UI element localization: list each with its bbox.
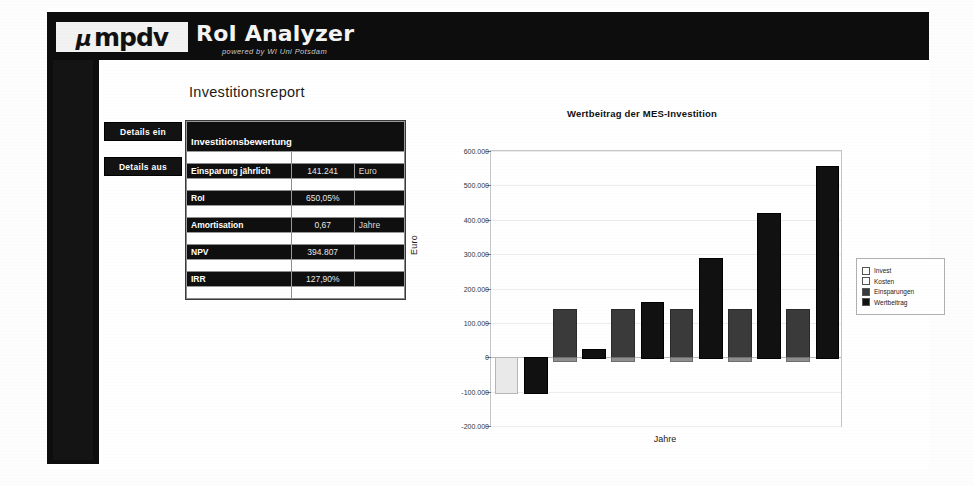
page-title: Investitionsreport [189, 84, 305, 100]
y-axis-tick-label: 400.000 [429, 216, 489, 223]
bar-wertbeitrag [816, 166, 840, 359]
app-subtitle: powered by WI Uni Potsdam [222, 47, 327, 56]
legend-swatch-icon [862, 267, 870, 275]
bar-wertbeitrag [524, 357, 548, 393]
table-spacer-row [187, 287, 405, 299]
spacer-cell [187, 152, 292, 164]
details-off-button[interactable]: Details aus [104, 157, 182, 176]
row-label: Amortisation [187, 218, 292, 233]
bar-einsparungen [611, 309, 635, 360]
table-spacer-row [187, 206, 405, 218]
table-row: IRR127,90% [187, 272, 405, 287]
row-value: 394.807 [291, 245, 354, 260]
bar-wertbeitrag [641, 302, 665, 359]
bar-kosten [611, 357, 635, 362]
bar-einsparungen [553, 309, 577, 360]
row-value: 127,90% [291, 272, 354, 287]
spacer-cell [187, 179, 292, 191]
scanned-page: µmpdv RoI Analyzer powered by WI Uni Pot… [0, 0, 974, 485]
y-axis-tick-label: -200.000 [429, 423, 489, 430]
spacer-cell [291, 260, 404, 272]
y-axis-tick-label: 0 [429, 354, 489, 361]
row-value: 141.241 [291, 164, 354, 179]
spacer-cell [291, 152, 404, 164]
bar-wertbeitrag [582, 349, 606, 360]
table-spacer-row [187, 233, 405, 245]
chart-title: Wertbeitrag der MES-Investition [432, 108, 852, 119]
legend-item: Wertbeitrag [862, 298, 940, 306]
table-row: RoI650,05% [187, 191, 405, 206]
bar-wertbeitrag [757, 213, 781, 359]
bar-einsparungen [728, 309, 752, 360]
bar-kosten [670, 357, 694, 362]
row-unit [354, 245, 404, 260]
spacer-cell [187, 206, 292, 218]
bar-group [491, 151, 549, 426]
bar-group [783, 151, 841, 426]
bar-group [608, 151, 666, 426]
bar-einsparungen [786, 309, 810, 360]
y-axis-tick-label: 500.000 [429, 182, 489, 189]
row-label: RoI [187, 191, 292, 206]
table-row: Einsparung jährlich141.241Euro [187, 164, 405, 179]
legend-swatch-icon [862, 298, 870, 306]
bar-kosten [728, 357, 752, 362]
y-axis-tick-label: 100.000 [429, 319, 489, 326]
y-axis-tick-label: 600.000 [429, 148, 489, 155]
mpdv-logo: µmpdv [56, 22, 188, 52]
table-title-cell: Investitionsbewertung [187, 122, 405, 152]
row-label: NPV [187, 245, 292, 260]
table-header-row: Investitionsbewertung [187, 122, 405, 152]
bar-group [549, 151, 607, 426]
bar-kosten [786, 357, 810, 362]
y-axis-tick-label: -100.000 [429, 388, 489, 395]
row-label: Einsparung jährlich [187, 164, 292, 179]
y-axis-label: Euro [409, 235, 419, 255]
bar-kosten [553, 357, 577, 362]
y-axis-tick-label: 200.000 [429, 285, 489, 292]
legend-item: Invest [862, 267, 940, 275]
row-unit: Jahre [354, 218, 404, 233]
wertbeitrag-chart: Wertbeitrag der MES-Investition Euro -20… [432, 100, 942, 450]
legend-swatch-icon [862, 288, 870, 296]
row-unit [354, 272, 404, 287]
legend-item: Kosten [862, 277, 940, 285]
legend-label: Invest [874, 267, 891, 274]
row-value: 650,05% [291, 191, 354, 206]
app-title: RoI Analyzer [196, 21, 354, 46]
legend-label: Wertbeitrag [874, 299, 907, 306]
x-axis-label: Jahre [490, 434, 840, 444]
table-spacer-row [187, 260, 405, 272]
table-row: NPV394.807 [187, 245, 405, 260]
spacer-cell [187, 287, 292, 299]
legend-label: Einsparungen [874, 288, 914, 295]
spacer-cell [187, 233, 292, 245]
bar-group [724, 151, 782, 426]
legend-label: Kosten [874, 278, 894, 285]
investitionsbewertung-table: InvestitionsbewertungEinsparung jährlich… [185, 120, 406, 300]
details-on-button[interactable]: Details ein [104, 122, 182, 141]
row-label: IRR [187, 272, 292, 287]
table-row: Amortisation0,67Jahre [187, 218, 405, 233]
y-axis-tick-label: 300.000 [429, 251, 489, 258]
row-unit [354, 191, 404, 206]
table-spacer-row [187, 152, 405, 164]
legend-swatch-icon [862, 277, 870, 285]
mu-glyph: µ [76, 26, 91, 51]
evaluation-table: InvestitionsbewertungEinsparung jährlich… [186, 121, 405, 299]
logo-brand: mpdv [94, 23, 168, 52]
spacer-cell [291, 287, 404, 299]
legend-item: Einsparungen [862, 288, 940, 296]
spacer-cell [187, 260, 292, 272]
chart-legend: InvestKostenEinsparungenWertbeitrag [856, 258, 945, 315]
bar-invest [495, 357, 519, 393]
row-value: 0,67 [291, 218, 354, 233]
row-unit: Euro [354, 164, 404, 179]
spacer-cell [291, 233, 404, 245]
table-spacer-row [187, 179, 405, 191]
spacer-cell [291, 179, 404, 191]
chart-plot-area: -200.000-100.0000100.000200.000300.00040… [490, 150, 842, 427]
spacer-cell [291, 206, 404, 218]
bar-einsparungen [670, 309, 694, 360]
bar-group [666, 151, 724, 426]
